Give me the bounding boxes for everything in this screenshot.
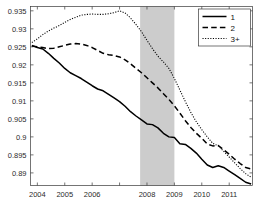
y-tick-label: 0.905	[8, 115, 27, 124]
y-tick-label: 0.915	[8, 79, 27, 88]
y-tick-label: 0.9	[16, 133, 26, 142]
shaded-regions	[140, 7, 174, 186]
chart-figure: 0.890.8950.90.9050.910.9150.920.9250.930…	[0, 0, 267, 213]
x-tick-label: 2004	[29, 190, 46, 199]
x-tick-label: 2006	[84, 190, 101, 199]
legend-label-3plus: 3+	[231, 35, 240, 44]
y-tick-label: 0.89	[12, 169, 27, 178]
x-tick-label: 2009	[166, 190, 183, 199]
recession-band	[140, 7, 174, 186]
chart-legend: 123+	[199, 9, 251, 46]
x-tick-label: 2010	[193, 190, 210, 199]
y-tick-label: 0.895	[8, 151, 27, 160]
y-tick-label: 0.925	[8, 43, 27, 52]
y-tick-label: 0.91	[12, 97, 27, 106]
x-tick-label: 2005	[56, 190, 73, 199]
line-chart: 0.890.8950.90.9050.910.9150.920.9250.930…	[0, 0, 267, 213]
x-tick-label: 2011	[221, 190, 237, 199]
y-tick-label: 0.93	[12, 25, 27, 34]
x-tick-label: 2008	[139, 190, 156, 199]
y-tick-label: 0.935	[8, 7, 27, 16]
legend-label-1: 1	[231, 13, 236, 22]
y-tick-label: 0.92	[12, 61, 27, 70]
legend-label-2: 2	[231, 24, 236, 33]
